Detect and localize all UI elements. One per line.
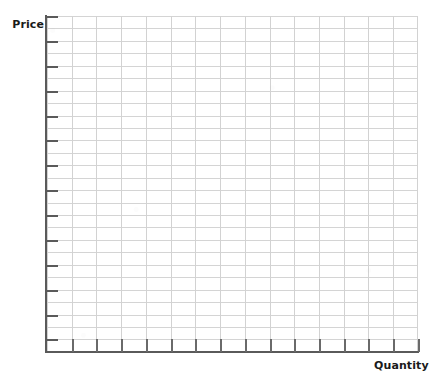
x-axis-tick	[245, 339, 247, 352]
x-axis-tick	[368, 339, 370, 352]
x-axis-tick	[344, 339, 346, 352]
y-axis-tick	[47, 165, 58, 167]
y-axis-tick	[47, 116, 58, 118]
y-axis-tick	[47, 240, 58, 242]
x-axis-tick	[146, 339, 148, 352]
x-axis-tick	[319, 339, 321, 352]
plot-area[interactable]	[47, 16, 418, 352]
y-axis-tick	[47, 290, 58, 292]
x-axis-tick	[121, 339, 123, 352]
y-axis-tick	[47, 91, 58, 93]
graph-figure: Price Quantity	[0, 0, 439, 381]
x-axis-line	[45, 351, 419, 353]
x-axis-tick	[270, 339, 272, 352]
gridlines	[47, 16, 418, 352]
x-axis-tick	[72, 339, 74, 352]
x-axis-tick	[96, 339, 98, 352]
y-axis-tick	[47, 66, 58, 68]
x-axis-tick	[393, 339, 395, 352]
grid-right-edge	[417, 16, 418, 352]
x-axis-tick	[195, 339, 197, 352]
x-axis-tick	[171, 339, 173, 352]
y-axis-tick	[47, 265, 58, 267]
y-axis-tick	[47, 140, 58, 142]
y-axis-tick	[47, 339, 58, 341]
x-axis-tick	[418, 339, 420, 352]
x-axis-tick	[220, 339, 222, 352]
y-axis-tick	[47, 41, 58, 43]
y-axis-title: Price	[11, 19, 44, 31]
x-axis-tick	[294, 339, 296, 352]
y-axis-tick	[47, 215, 58, 217]
y-axis-tick	[47, 315, 58, 317]
y-axis-tick	[47, 190, 58, 192]
x-axis-title: Quantity	[374, 360, 426, 372]
y-axis-tick	[47, 16, 58, 18]
